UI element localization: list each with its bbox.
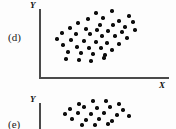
scatter-point bbox=[106, 122, 109, 125]
scatter-point bbox=[127, 114, 130, 117]
scatter-point bbox=[66, 50, 69, 53]
scatter-point bbox=[68, 26, 71, 29]
x-axis-line-d bbox=[39, 77, 169, 79]
scatter-point bbox=[123, 25, 126, 28]
figure-container: (d) Y X (e) Y bbox=[0, 0, 176, 129]
scatter-point bbox=[101, 16, 104, 19]
y-axis-line-d bbox=[39, 9, 41, 79]
scatter-point bbox=[80, 123, 83, 126]
panel-label-e: (e) bbox=[8, 118, 20, 129]
scatter-point bbox=[117, 19, 120, 22]
scatter-point bbox=[133, 28, 136, 31]
scatter-panel-d: (d) Y X bbox=[0, 0, 176, 92]
scatter-point bbox=[91, 99, 94, 102]
y-axis-label-e: Y bbox=[30, 94, 36, 104]
y-axis-line-e bbox=[39, 103, 41, 129]
scatter-point bbox=[102, 56, 105, 59]
scatter-point bbox=[117, 42, 120, 45]
scatter-point bbox=[111, 23, 114, 26]
scatter-point bbox=[82, 105, 85, 108]
scatter-point bbox=[64, 57, 67, 60]
scatter-point bbox=[110, 119, 113, 122]
scatter-point bbox=[95, 106, 98, 109]
scatter-point bbox=[94, 11, 97, 14]
scatter-point bbox=[100, 34, 103, 37]
scatter-point bbox=[115, 113, 118, 116]
panel-label-d: (d) bbox=[8, 31, 21, 43]
scatter-point bbox=[77, 58, 80, 61]
scatter-point bbox=[95, 28, 98, 31]
scatter-point bbox=[131, 20, 134, 23]
scatter-point bbox=[117, 102, 120, 105]
scatter-point bbox=[127, 14, 130, 17]
scatter-point bbox=[76, 21, 79, 24]
scatter-point bbox=[75, 45, 78, 48]
scatter-point bbox=[68, 107, 71, 110]
scatter-point bbox=[76, 111, 79, 114]
scatter-point bbox=[60, 31, 63, 34]
scatter-point bbox=[98, 23, 101, 26]
scatter-point bbox=[74, 32, 77, 35]
scatter-point bbox=[103, 53, 106, 56]
scatter-point bbox=[113, 34, 116, 37]
scatter-point bbox=[99, 46, 102, 49]
scatter-point bbox=[125, 36, 128, 39]
scatter-panel-e: (e) Y bbox=[0, 92, 176, 129]
scatter-point bbox=[102, 111, 105, 114]
plot-area-e bbox=[0, 92, 176, 129]
scatter-point bbox=[84, 27, 87, 30]
scatter-point bbox=[108, 105, 111, 108]
scatter-point bbox=[89, 112, 92, 115]
scatter-point bbox=[106, 29, 109, 32]
scatter-point bbox=[63, 112, 66, 115]
scatter-point bbox=[88, 32, 91, 35]
x-axis-label-d: X bbox=[159, 80, 165, 90]
scatter-point bbox=[69, 38, 72, 41]
scatter-point bbox=[104, 99, 107, 102]
scatter-point bbox=[55, 37, 58, 40]
scatter-point bbox=[93, 123, 96, 126]
scatter-point bbox=[110, 9, 113, 12]
scatter-point bbox=[97, 117, 100, 120]
scatter-point bbox=[120, 30, 123, 33]
scatter-point bbox=[79, 51, 82, 54]
scatter-point bbox=[94, 40, 97, 43]
scatter-point bbox=[84, 118, 87, 121]
scatter-point bbox=[61, 43, 64, 46]
scatter-point bbox=[87, 46, 90, 49]
scatter-point bbox=[77, 102, 80, 105]
scatter-point bbox=[82, 39, 85, 42]
scatter-point bbox=[89, 59, 92, 62]
scatter-point bbox=[110, 48, 113, 51]
scatter-point bbox=[121, 108, 124, 111]
y-axis-label-d: Y bbox=[30, 0, 36, 10]
scatter-point bbox=[105, 41, 108, 44]
scatter-point bbox=[86, 17, 89, 20]
scatter-point bbox=[91, 52, 94, 55]
scatter-point bbox=[70, 117, 73, 120]
